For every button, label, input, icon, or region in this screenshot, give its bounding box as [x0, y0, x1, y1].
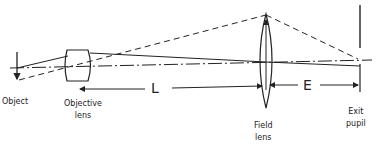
object-label: Object: [2, 96, 28, 108]
optical-diagram: L E Object Objective lens Field lens Exi…: [0, 0, 381, 147]
objective-lens: [65, 50, 91, 81]
dimension-L-right: [172, 86, 262, 88]
exit-pupil-label: Exit pupil: [346, 106, 366, 130]
dimension-L-label: L: [148, 81, 162, 95]
ray-solid-1: [17, 56, 68, 68]
ray-dashed-2: [266, 15, 358, 59]
diagram-drawing: [0, 0, 381, 147]
dimension-E-label: E: [300, 78, 315, 92]
ray-solid-3: [266, 62, 360, 66]
objective-lens-label: Objective lens: [64, 98, 102, 122]
ray-dashed-1: [19, 15, 266, 80]
field-lens-label: Field lens: [254, 120, 272, 144]
